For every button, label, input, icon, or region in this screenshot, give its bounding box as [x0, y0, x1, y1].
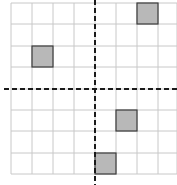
shaded-cell	[95, 153, 116, 174]
dashed-axes	[4, 0, 177, 185]
grid-canvas	[0, 0, 177, 185]
shaded-cell	[32, 46, 53, 67]
coordinate-grid-diagram	[0, 0, 177, 185]
shaded-cell	[137, 3, 158, 24]
shaded-cell	[116, 110, 137, 131]
